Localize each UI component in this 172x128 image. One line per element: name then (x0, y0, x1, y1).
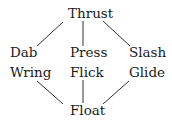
node-glide: Glide (129, 64, 165, 80)
edge-thrust-slash (103, 21, 130, 46)
edge-wring-float (37, 81, 63, 104)
edge-thrust-dab (37, 22, 63, 46)
node-wring: Wring (10, 64, 52, 80)
node-float: Float (70, 102, 106, 118)
edge-glide-float (103, 81, 129, 104)
node-press: Press (70, 44, 107, 60)
node-dab: Dab (10, 44, 38, 60)
node-slash: Slash (129, 44, 167, 60)
node-flick: Flick (70, 64, 105, 80)
node-thrust: Thrust (68, 5, 114, 21)
effort-diagram: Thrust Dab Press Slash Wring Flick Glide… (0, 0, 172, 128)
